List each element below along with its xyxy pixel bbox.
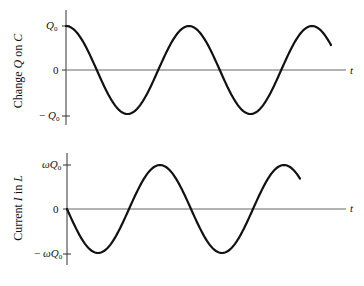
tick-var: Q [48,109,56,121]
label-text: Change [11,69,25,109]
bottom-y-axis-label: Current I in L [12,168,24,248]
bottom-axes [63,153,346,265]
chart-canvas [0,0,364,286]
tick-prefix: − [34,247,43,259]
label-var: L [11,175,25,182]
tick-sub: 0 [58,164,62,172]
tick-var: Q [46,19,54,31]
top-x-axis-label: t [350,65,353,76]
top-y-axis-label: Change Q on C [12,31,24,111]
label-var: I [11,197,25,201]
label-text: Current [11,201,25,241]
tick-sub: 0 [59,253,63,261]
label-text: in [11,182,25,197]
label-var: Q [11,60,25,69]
bottom-tick-label-max: ωQ0 [42,159,61,172]
top-tick-label-min: − Q0 [39,110,59,123]
tick-var: ωQ [43,247,59,259]
top-tick-label-max: Q0 [46,20,57,33]
tick-prefix: − [39,109,48,121]
label-text: on [11,42,25,60]
bottom-tick-label-zero: 0 [53,204,59,215]
tick-var: ωQ [42,158,58,170]
label-var: C [11,34,25,42]
tick-sub: 0 [56,115,60,123]
bottom-tick-label-min: − ωQ0 [34,248,62,261]
top-axes [62,10,346,125]
bottom-x-axis-label: t [350,203,353,214]
tick-sub: 0 [54,25,58,33]
top-tick-label-zero: 0 [53,65,59,76]
